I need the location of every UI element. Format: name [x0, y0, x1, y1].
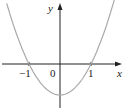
y-axis-arrow-icon	[58, 3, 63, 10]
parabola-curve	[7, 0, 118, 95]
x-axis-label: x	[117, 68, 122, 79]
y-axis-label: y	[48, 3, 53, 14]
x-axis-arrow-icon	[115, 62, 122, 67]
origin-label: 0	[50, 68, 56, 79]
parabola-plot	[0, 0, 127, 111]
tick-label-neg1: −1	[19, 68, 31, 79]
tick-label-1: 1	[88, 68, 94, 79]
